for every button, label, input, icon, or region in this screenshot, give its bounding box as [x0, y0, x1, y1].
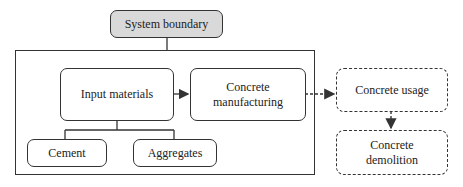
node-concrete-demolition: Concrete demolition — [336, 130, 448, 175]
system-boundary-label-box: System boundary — [110, 10, 223, 38]
node-concrete-usage: Concrete usage — [336, 68, 448, 112]
node-concrete-manufacturing-label-1: Concrete — [226, 80, 269, 95]
node-cement: Cement — [27, 139, 107, 167]
node-aggregates: Aggregates — [133, 139, 217, 167]
node-concrete-manufacturing: Concrete manufacturing — [190, 68, 306, 121]
node-concrete-demolition-label-1: Concrete — [370, 138, 413, 153]
node-input-materials-label: Input materials — [81, 87, 153, 102]
node-aggregates-label: Aggregates — [148, 146, 203, 161]
node-cement-label: Cement — [48, 146, 85, 161]
node-input-materials: Input materials — [60, 68, 174, 121]
node-concrete-usage-label: Concrete usage — [355, 83, 429, 98]
node-concrete-demolition-label-2: demolition — [366, 153, 418, 168]
node-concrete-manufacturing-label-2: manufacturing — [213, 95, 283, 110]
system-boundary-label: System boundary — [125, 17, 209, 32]
